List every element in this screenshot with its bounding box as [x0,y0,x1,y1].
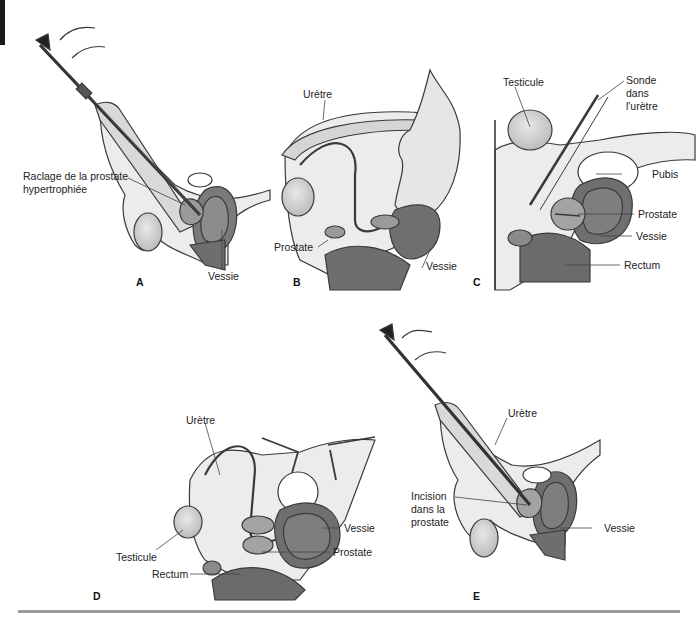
panel-letter-e: E [473,590,480,602]
panel-letter-a: A [136,276,144,288]
label-prostate-c: Prostate [638,208,677,221]
panel-c-drawing [495,95,695,290]
label-bladder-a: Vessie [208,270,239,283]
label-urethra-b: Urètre [303,88,332,101]
label-prostate-d: Prostate [333,546,372,559]
label-probe-line3: l'urètre [626,100,658,113]
label-urethra-e: Urètre [508,407,537,420]
label-probe-line2: dans [626,87,649,100]
label-rectum-d: Rectum [152,568,188,581]
label-rectum-c: Rectum [624,259,660,272]
label-incision-line3: prostate [411,516,449,529]
label-prostate-b: Prostate [274,241,313,254]
panel-b-drawing [282,70,460,290]
label-testicle-d: Testicule [116,551,157,564]
label-bladder-e: Vessie [604,522,635,535]
bottom-rule-divider [18,610,680,613]
label-testicle-c: Testicule [503,76,544,89]
label-incision-line1: Incision [411,490,447,503]
label-incision-line2: dans la [411,503,445,516]
panel-a-drawing [36,27,270,270]
label-bladder-b: Vessie [426,260,457,273]
label-urethra-d: Urètre [186,414,215,427]
label-bladder-c: Vessie [636,230,667,243]
label-pubis-c: Pubis [652,168,678,181]
panel-letter-c: C [473,276,481,288]
label-bladder-d: Vessie [344,522,375,535]
label-prostate-scraping-line2: hypertrophiée [23,183,87,196]
label-prostate-scraping: Raclage de la prostate [23,170,128,183]
panel-letter-b: B [293,276,301,288]
label-probe-line1: Sonde [626,74,656,87]
panel-letter-d: D [93,590,101,602]
panel-d-drawing [174,437,375,600]
